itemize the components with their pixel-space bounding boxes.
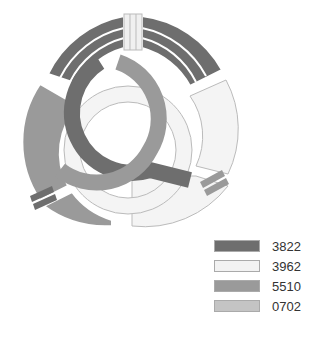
legend-swatch <box>214 260 260 272</box>
legend-item: 0702 <box>214 296 301 316</box>
legend-swatch <box>214 300 260 312</box>
legend: 3822 3962 5510 0702 <box>214 236 301 316</box>
legend-item: 3822 <box>214 236 301 256</box>
legend-label: 3822 <box>272 239 301 254</box>
legend-item: 3962 <box>214 256 301 276</box>
legend-label: 3962 <box>272 259 301 274</box>
legend-item: 5510 <box>214 276 301 296</box>
legend-swatch <box>214 240 260 252</box>
legend-label: 0702 <box>272 299 301 314</box>
top-clasp <box>124 14 142 50</box>
legend-swatch <box>214 280 260 292</box>
legend-label: 5510 <box>272 279 301 294</box>
